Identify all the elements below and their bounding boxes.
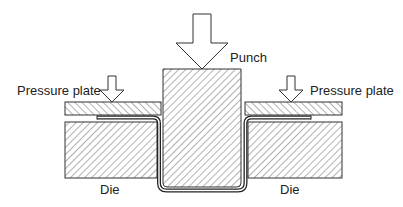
- die-left-label: Die: [100, 183, 120, 196]
- left-pressure-plate: [65, 102, 161, 115]
- punch-label: Punch: [230, 51, 267, 64]
- punch: [163, 69, 241, 187]
- right-die: [248, 122, 342, 178]
- right-plate-force-arrow-icon: [279, 76, 303, 102]
- die-right-label: Die: [280, 183, 300, 196]
- left-plate-force-arrow-icon: [100, 76, 124, 102]
- left-die: [65, 122, 157, 178]
- pressure-plate-right-label: Pressure plate: [310, 84, 394, 97]
- punch-force-arrow-icon: [176, 14, 228, 69]
- diagram-canvas: [0, 0, 403, 207]
- pressure-plate-left-label: Pressure plate: [17, 84, 101, 97]
- right-pressure-plate: [245, 102, 342, 115]
